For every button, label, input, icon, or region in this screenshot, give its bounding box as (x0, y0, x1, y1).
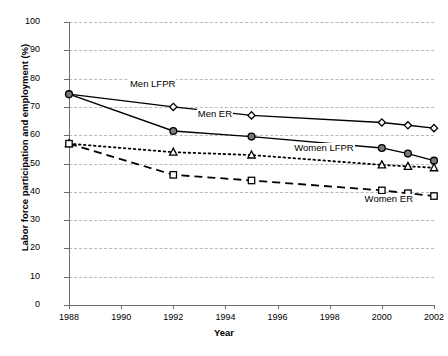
x-axis-tick-label: 1998 (307, 312, 353, 322)
y-axis-tick (64, 135, 70, 136)
y-axis-tick-label: 90 (0, 45, 40, 54)
gridline-y (69, 277, 434, 278)
y-axis-tick-label: 40 (0, 187, 40, 196)
y-axis-tick (64, 107, 70, 108)
y-axis-tick-label: 80 (0, 74, 40, 83)
x-axis-tick (121, 305, 122, 309)
y-axis-tick (64, 220, 70, 221)
x-axis-tick-label: 1992 (150, 312, 196, 322)
gridline-y (69, 135, 434, 136)
x-axis-tick-label: 2000 (359, 312, 405, 322)
x-axis-tick-label: 1996 (255, 312, 301, 322)
x-axis-tick (225, 305, 226, 309)
y-axis-tick-label: 50 (0, 159, 40, 168)
y-axis-tick-label: 60 (0, 130, 40, 139)
y-axis-tick-label: 100 (0, 17, 40, 26)
series-annotation-women-er: Women ER (364, 194, 414, 204)
y-axis-tick (64, 22, 70, 23)
x-axis-tick (278, 305, 279, 309)
plot-area (69, 22, 434, 305)
x-axis-tick-label: 2002 (411, 312, 448, 322)
gridline-y (69, 220, 434, 221)
y-axis-tick-label: 70 (0, 102, 40, 111)
series-annotation-men-lfpr: Men LFPR (129, 79, 176, 89)
x-axis-line (69, 305, 435, 306)
y-axis-tick-label: 10 (0, 272, 40, 281)
x-axis-tick (330, 305, 331, 309)
x-axis-tick-label: 1988 (46, 312, 92, 322)
y-axis-tick-label: 20 (0, 243, 40, 252)
gridline-y (69, 107, 434, 108)
y-axis-tick (64, 79, 70, 80)
x-axis-tick-label: 1994 (202, 312, 248, 322)
x-axis-tick-label: 1990 (98, 312, 144, 322)
gridline-y (69, 248, 434, 249)
y-axis-tick (64, 248, 70, 249)
y-axis-tick-label: 0 (0, 300, 40, 309)
y-axis-tick (64, 50, 70, 51)
y-axis-tick (64, 192, 70, 193)
gridline-y (69, 79, 434, 80)
gridline-y (69, 50, 434, 51)
x-axis-tick (173, 305, 174, 309)
y-axis-tick (64, 164, 70, 165)
x-axis-tick (382, 305, 383, 309)
x-axis-tick (434, 305, 435, 309)
gridline-y (69, 164, 434, 165)
series-annotation-men-er: Men ER (197, 109, 233, 119)
y-axis-tick-label: 30 (0, 215, 40, 224)
chart-figure: Labor force participation and employment… (0, 0, 448, 356)
x-axis-tick (69, 305, 70, 309)
series-annotation-women-lfpr: Women LFPR (293, 143, 354, 153)
x-axis-title: Year (0, 327, 448, 338)
y-axis-tick (64, 277, 70, 278)
gridline-y (69, 22, 434, 23)
